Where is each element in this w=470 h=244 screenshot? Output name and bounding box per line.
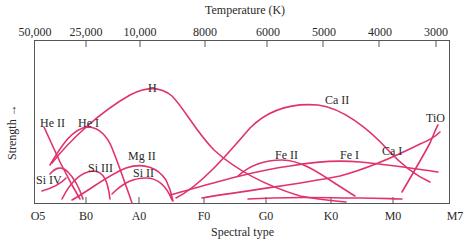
top-ticks bbox=[86, 40, 436, 47]
top-tick-25000: 25,000 bbox=[70, 26, 103, 38]
top-tick-3000: 3000 bbox=[424, 26, 448, 38]
bottom-tick-b0: B0 bbox=[79, 210, 93, 222]
top-tick-8000: 8000 bbox=[193, 26, 217, 38]
series-label-h: H bbox=[148, 82, 157, 94]
bottom-tick-m7: M7 bbox=[447, 210, 464, 222]
series-label-mg-ii: Mg II bbox=[128, 150, 156, 162]
bottom-tick-f0: F0 bbox=[198, 210, 211, 222]
curve-si-ii bbox=[112, 178, 172, 200]
series-label-si-iv: Si IV bbox=[36, 174, 62, 186]
x2-axis-title: Temperature (K) bbox=[205, 4, 285, 16]
curve-si-iii bbox=[62, 171, 110, 199]
top-tick-6000: 6000 bbox=[256, 26, 280, 38]
top-tick-4000: 4000 bbox=[368, 26, 392, 38]
top-tick-10000: 10,000 bbox=[124, 26, 157, 38]
series-label-fe-i: Fe I bbox=[340, 149, 359, 161]
series-label-he-i: He I bbox=[78, 117, 99, 129]
curve-tio bbox=[402, 125, 438, 192]
top-tick-5000: 5000 bbox=[312, 26, 336, 38]
bottom-tick-o5: O5 bbox=[31, 210, 46, 222]
top-tick-50000: 50,000 bbox=[19, 26, 52, 38]
series-label-ca-ii: Ca II bbox=[325, 94, 349, 106]
curve-low-k bbox=[248, 197, 402, 199]
bottom-tick-g0: G0 bbox=[259, 210, 274, 222]
bottom-tick-a0: A0 bbox=[132, 210, 147, 222]
bottom-tick-m0: M0 bbox=[385, 210, 402, 222]
series-label-si-iii: Si III bbox=[88, 162, 113, 174]
series-label-si-ii: Si II bbox=[133, 167, 154, 179]
y-axis-title-text: Strength bbox=[5, 119, 19, 160]
series-label-he-ii: He II bbox=[40, 117, 65, 129]
x-axis-title: Spectral type bbox=[211, 226, 274, 238]
series-label-fe-ii: Fe II bbox=[275, 149, 298, 161]
y-axis-title: Strength → bbox=[6, 104, 18, 160]
series-label-ca-i: Ca I bbox=[382, 145, 402, 157]
bottom-tick-k0: K0 bbox=[324, 210, 339, 222]
arrow-right-icon: → bbox=[5, 104, 19, 116]
curve-fe-i bbox=[170, 161, 438, 195]
series-label-tio: TiO bbox=[426, 112, 445, 124]
